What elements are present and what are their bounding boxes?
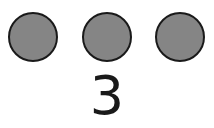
count-number: 3 bbox=[0, 68, 214, 124]
dot-3 bbox=[155, 12, 205, 62]
dot-1 bbox=[8, 12, 58, 62]
dot-2 bbox=[82, 12, 132, 62]
